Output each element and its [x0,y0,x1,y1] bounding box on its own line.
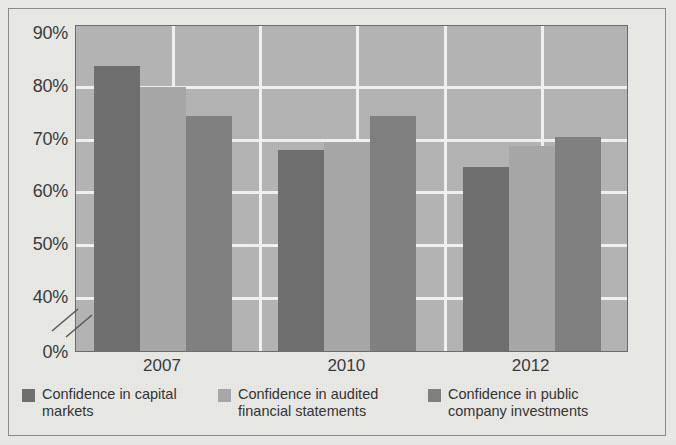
legend-item[interactable]: Confidence in capital markets [22,386,218,420]
legend-item[interactable]: Confidence in audited financial statemen… [218,386,428,420]
bar[interactable] [463,167,509,351]
x-axis-tick-label: 2012 [471,357,591,376]
bar[interactable] [555,137,601,351]
gridline-vertical [444,26,447,351]
legend-swatch-icon [428,389,441,402]
x-axis: 200720102012 [0,357,676,381]
bar[interactable] [509,146,555,351]
legend-item-label: Confidence in public company investments [448,386,588,420]
legend-swatch-icon [218,389,231,402]
y-axis-tick-label: 80% [14,77,68,95]
plot-area [75,25,628,352]
bar[interactable] [186,116,232,351]
bar[interactable] [140,87,186,351]
legend-item[interactable]: Confidence in public company investments [428,386,638,420]
y-axis-tick-label: 50% [14,235,68,253]
legend-item-label: Confidence in audited financial statemen… [238,386,378,420]
y-axis-tick-label: 60% [14,182,68,200]
legend-swatch-icon [22,389,35,402]
y-axis-tick-label: 40% [14,288,68,306]
bar[interactable] [370,116,416,351]
y-axis-tick-label: 90% [14,24,68,42]
x-axis-tick-label: 2007 [102,357,222,376]
x-axis-tick-label: 2010 [286,357,406,376]
y-axis-tick-label: 70% [14,130,68,148]
gridline-vertical [259,26,262,351]
bar[interactable] [278,150,324,351]
bar[interactable] [324,142,370,351]
chart-legend: Confidence in capital markets Confidence… [22,386,662,430]
bar[interactable] [94,66,140,351]
legend-item-label: Confidence in capital markets [42,386,177,420]
